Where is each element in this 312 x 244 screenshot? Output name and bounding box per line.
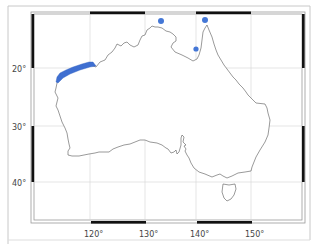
lat-label-30: 30° (12, 123, 26, 132)
australia-coastline (55, 25, 270, 178)
lat-label-40: 40° (12, 179, 26, 188)
latitude-labels: 20° 30° 40° (12, 65, 26, 188)
lon-label-120: 120° (84, 230, 103, 239)
point-arnhem (158, 18, 164, 24)
lon-label-150: 150° (245, 230, 264, 239)
point-gulf-carpentaria (193, 46, 198, 51)
longitude-labels: 120° 130° 140° 150° (84, 230, 264, 239)
lon-label-140: 140° (190, 230, 209, 239)
tasmania-coastline (222, 184, 236, 201)
point-cape-york (202, 17, 208, 23)
lat-label-20: 20° (12, 65, 26, 74)
lon-label-130: 130° (139, 230, 158, 239)
australia-map: 20° 30° 40° 120° 130° 140° 150° (0, 0, 312, 244)
